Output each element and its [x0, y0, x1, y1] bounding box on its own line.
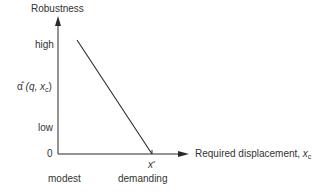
alpha-hat-close: ) — [49, 81, 52, 92]
x-axis-title-text: Required displacement, — [195, 148, 303, 159]
x-scale-modest: modest — [48, 173, 81, 185]
x-scale-demanding: demanding — [118, 173, 167, 185]
y-tick-low: low — [38, 122, 53, 134]
x-star-sup: * — [153, 160, 155, 166]
y-tick-zero: 0 — [47, 148, 53, 160]
robustness-diagram — [0, 0, 318, 194]
y-tick-alpha-hat: α̂ (q, xc) — [17, 81, 52, 96]
y-axis-arrow-icon — [55, 16, 61, 26]
x-axis-title: Required displacement, xc — [195, 148, 311, 163]
alpha-hat-args: (q, — [23, 81, 40, 92]
robustness-curve — [77, 40, 152, 154]
y-tick-high: high — [35, 39, 54, 51]
x-axis-sub: c — [308, 153, 312, 160]
x-star-label: x* — [148, 157, 155, 171]
y-axis-title: Robustness — [31, 3, 84, 15]
x-axis-arrow-icon — [178, 151, 189, 157]
